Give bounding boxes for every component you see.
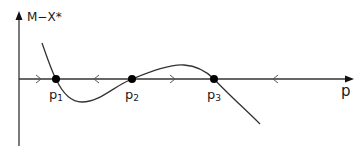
fixed-point-label-p1: p1 xyxy=(49,88,63,103)
fixed-point-p1 xyxy=(52,75,60,83)
fixed-point-p2 xyxy=(128,75,136,83)
label-p1-sub: 1 xyxy=(57,93,63,103)
y-axis-arrowhead-icon xyxy=(16,11,23,20)
fixed-point-label-p3: p3 xyxy=(207,88,221,103)
fixed-point-p3 xyxy=(210,75,218,83)
fixed-point-label-p2: p2 xyxy=(125,88,139,103)
x-axis-label: p xyxy=(341,84,351,99)
curve xyxy=(42,43,260,124)
label-p2-sub: 2 xyxy=(133,93,139,103)
y-axis-label: M−X* xyxy=(27,11,62,23)
label-p3-sub: 3 xyxy=(215,93,221,103)
